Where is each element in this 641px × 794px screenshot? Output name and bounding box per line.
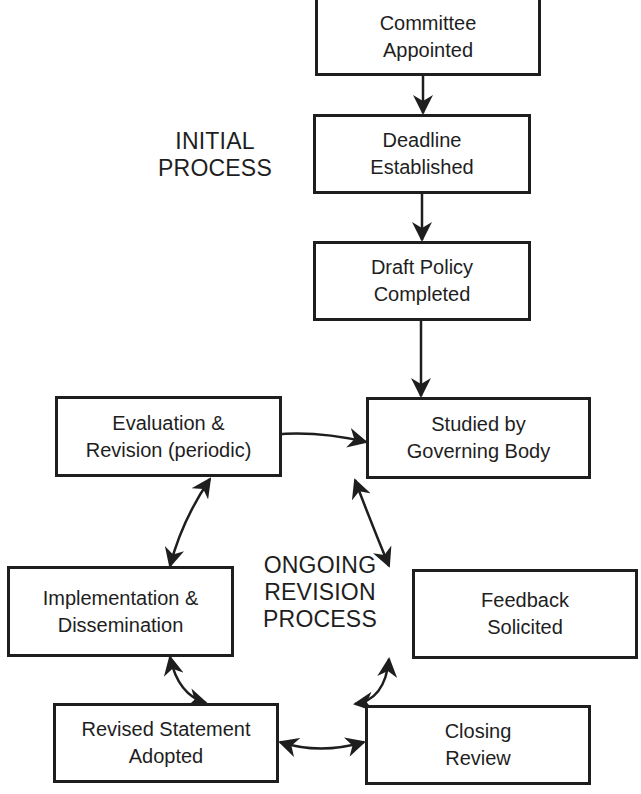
- node-evaluation-revision: Evaluation & Revision (periodic): [55, 396, 282, 477]
- node-implementation-dissemination: Implementation & Dissemination: [7, 566, 234, 657]
- initial-process-label: INITIAL PROCESS: [140, 128, 290, 182]
- arrow-evaluation-implementation: [170, 479, 210, 566]
- node-closing-review: Closing Review: [365, 705, 591, 785]
- ongoing-revision-process-label: ONGOING REVISION PROCESS: [245, 552, 395, 633]
- node-draft-policy-completed: Draft Policy Completed: [313, 241, 531, 321]
- node-studied-by-governing-body: Studied by Governing Body: [366, 397, 591, 479]
- arrow-revised-closing: [280, 742, 364, 749]
- arrow-implementation-revised: [170, 657, 206, 703]
- node-committee-appointed: Committee Appointed: [315, 0, 541, 76]
- node-feedback-solicited: Feedback Solicited: [412, 569, 638, 659]
- node-deadline-established: Deadline Established: [313, 114, 531, 194]
- node-revised-statement-adopted: Revised Statement Adopted: [53, 703, 279, 783]
- arrow-feedback-closing: [355, 659, 389, 704]
